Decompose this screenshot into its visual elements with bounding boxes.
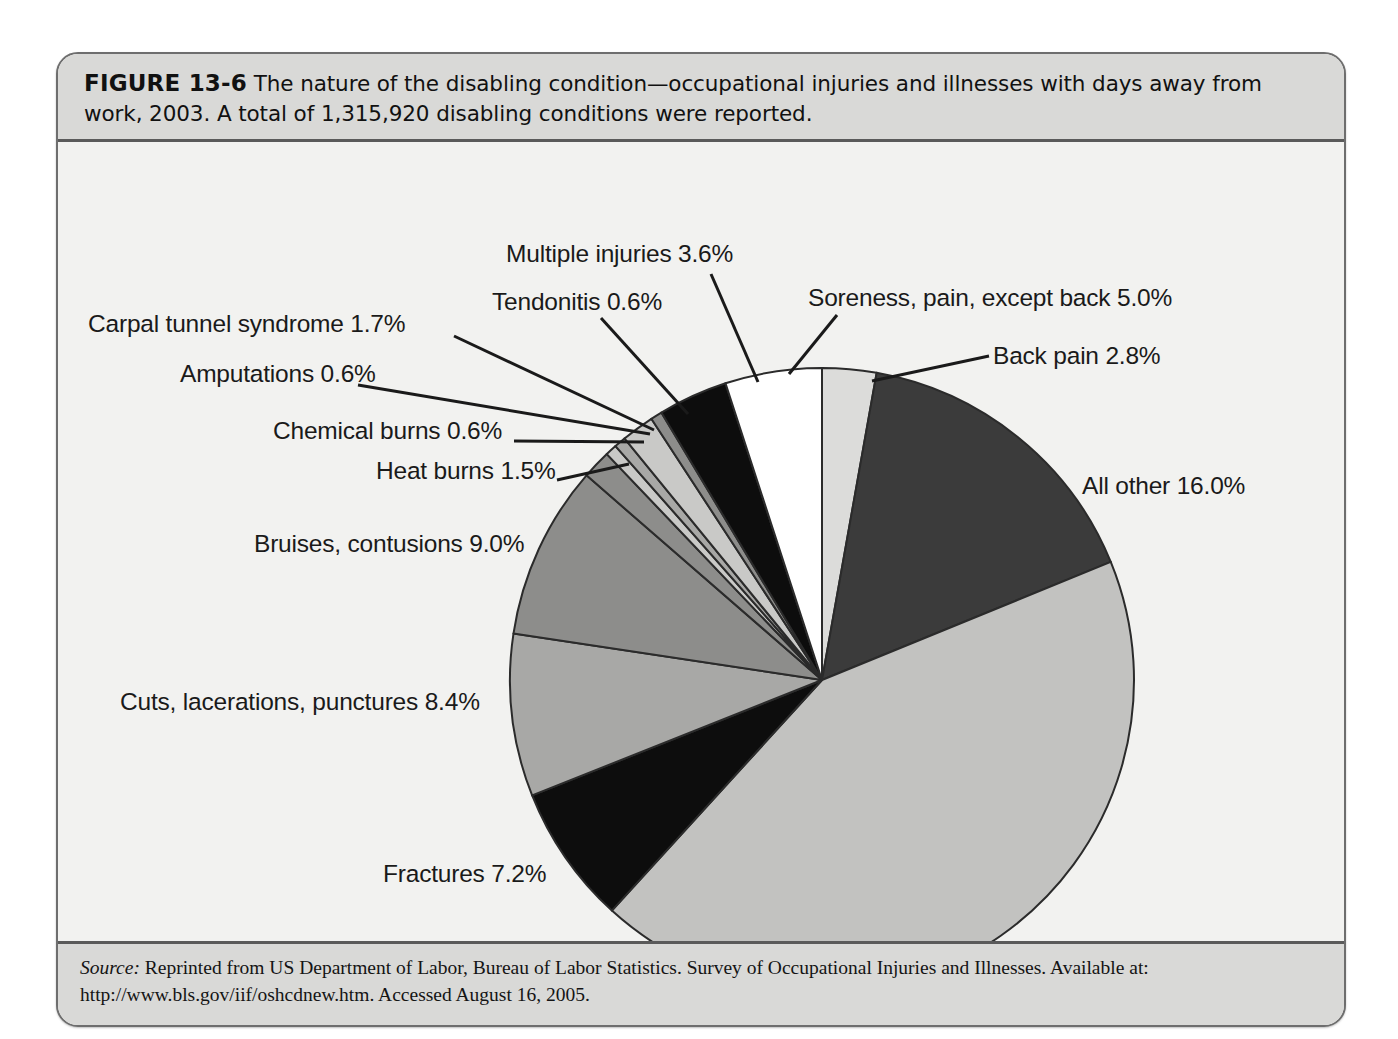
pie-label-soreness: Soreness, pain, except back 5.0%: [808, 284, 1172, 312]
source-keyword: Source:: [80, 957, 140, 978]
pie-label-heat-burns: Heat burns 1.5%: [376, 457, 556, 485]
figure-source-band: Source: Reprinted from US Department of …: [58, 941, 1344, 1025]
leader-line-multiple-injuries: [711, 274, 758, 382]
pie-label-cuts: Cuts, lacerations, punctures 8.4%: [120, 688, 480, 716]
pie-chart-plot-area: Multiple injuries 3.6% Soreness, pain, e…: [58, 142, 1344, 942]
leader-line-chemical-burns: [514, 441, 644, 442]
figure-caption: FIGURE 13-6 The nature of the disabling …: [84, 68, 1320, 129]
pie-label-bruises: Bruises, contusions 9.0%: [254, 530, 524, 558]
pie-label-multiple-injuries: Multiple injuries 3.6%: [506, 240, 733, 268]
figure-number: FIGURE 13-6: [84, 70, 247, 96]
leader-line-soreness: [789, 315, 837, 374]
pie-label-tendonitis: Tendonitis 0.6%: [492, 288, 662, 316]
figure-caption-band: FIGURE 13-6 The nature of the disabling …: [58, 54, 1344, 142]
leader-line-tendonitis: [601, 318, 688, 414]
pie-label-amputations: Amputations 0.6%: [180, 360, 376, 388]
pie-slice-group: [510, 368, 1134, 942]
source-citation: Reprinted from US Department of Labor, B…: [80, 957, 1149, 1005]
pie-label-chemical-burns: Chemical burns 0.6%: [273, 417, 502, 445]
figure-panel: FIGURE 13-6 The nature of the disabling …: [56, 52, 1346, 1027]
pie-label-back-pain: Back pain 2.8%: [993, 342, 1160, 370]
leader-line-back-pain: [872, 356, 989, 381]
figure-caption-text: The nature of the disabling condition—oc…: [84, 71, 1262, 126]
pie-label-all-other: All other 16.0%: [1082, 472, 1245, 500]
figure-source: Source: Reprinted from US Department of …: [80, 954, 1324, 1008]
leader-line-carpal: [454, 336, 654, 430]
pie-label-fractures: Fractures 7.2%: [383, 860, 546, 888]
pie-label-carpal-tunnel: Carpal tunnel syndrome 1.7%: [88, 310, 405, 338]
